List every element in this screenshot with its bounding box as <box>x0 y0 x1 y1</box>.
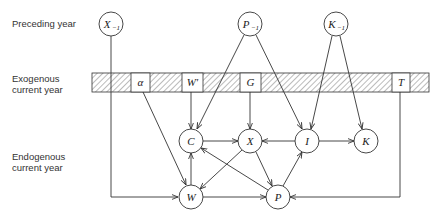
svg-text:K: K <box>327 18 336 30</box>
node-w: W <box>179 185 203 209</box>
svg-text:P: P <box>242 18 250 30</box>
box-t-label: T <box>398 76 405 88</box>
box-alpha-label: α <box>138 76 144 88</box>
svg-text:X: X <box>103 18 112 30</box>
svg-text:K: K <box>361 135 370 147</box>
svg-text:−1: −1 <box>251 24 259 32</box>
node-p-lag: P −1 <box>238 12 262 36</box>
svg-text:P: P <box>274 191 282 203</box>
node-k-lag: K −1 <box>324 12 348 36</box>
node-k: K <box>354 129 378 153</box>
node-i: I <box>295 129 319 153</box>
edge-x-p <box>256 152 272 186</box>
edge-x1-w <box>111 36 178 197</box>
causal-diagram: α W′ G T <box>0 0 439 219</box>
exogenous-bar: α W′ G T <box>92 73 429 92</box>
edges <box>111 35 400 197</box>
svg-text:X: X <box>246 135 255 147</box>
svg-text:W: W <box>186 191 196 203</box>
svg-text:−1: −1 <box>112 24 120 32</box>
node-x-lag: X −1 <box>99 12 123 36</box>
svg-text:−1: −1 <box>337 24 345 32</box>
svg-text:C: C <box>187 135 195 147</box>
node-x: X <box>238 129 262 153</box>
box-wprime-label: W′ <box>187 76 199 88</box>
node-c: C <box>179 129 203 153</box>
node-p: P <box>266 185 290 209</box>
edge-p-i <box>283 152 302 186</box>
edge-p-c <box>201 148 268 190</box>
box-g-label: G <box>247 76 255 88</box>
